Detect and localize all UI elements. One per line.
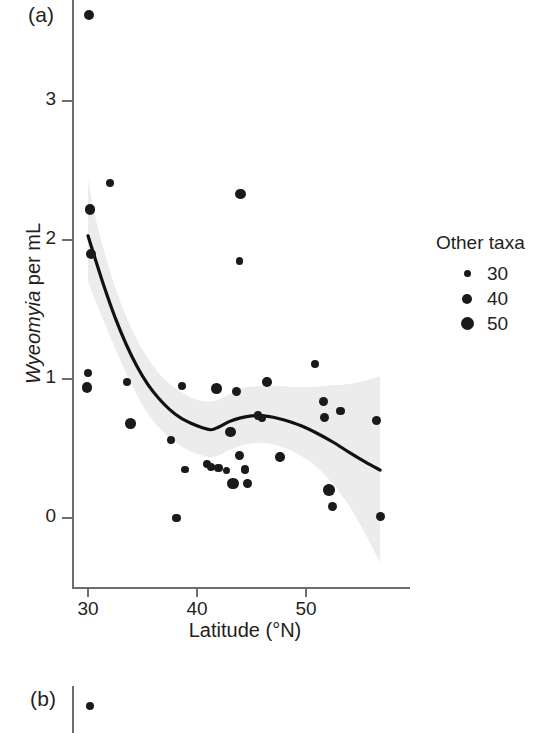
data-point xyxy=(323,484,335,496)
data-point xyxy=(178,382,186,390)
legend-entry-30: 30 xyxy=(436,261,546,286)
legend-bubble-cell xyxy=(454,270,480,277)
data-point xyxy=(125,418,136,429)
plot-curves xyxy=(0,0,546,733)
legend-label-30: 30 xyxy=(487,263,508,285)
data-point xyxy=(172,514,181,523)
figure-panel-a-b: (a) (b) 0123304050 Wyeomyia per mL Latit… xyxy=(0,0,546,733)
legend: Other taxa 304050 xyxy=(436,232,546,336)
data-point xyxy=(211,383,222,394)
data-point xyxy=(225,427,236,438)
legend-bubble-cell xyxy=(454,317,480,330)
legend-entry-50: 50 xyxy=(436,311,546,336)
legend-label-40: 40 xyxy=(487,288,508,310)
data-point xyxy=(84,10,94,20)
legend-label-50: 50 xyxy=(487,313,508,335)
data-point xyxy=(167,436,175,444)
legend-entry-40: 40 xyxy=(436,286,546,311)
legend-bubble-30 xyxy=(464,270,471,277)
legend-bubble-50 xyxy=(461,317,474,330)
legend-title: Other taxa xyxy=(436,232,546,254)
legend-bubble-cell xyxy=(454,294,480,304)
data-point xyxy=(376,512,385,521)
data-point xyxy=(243,479,252,488)
data-point xyxy=(241,465,250,474)
legend-rows: 304050 xyxy=(436,261,546,336)
data-point xyxy=(236,257,244,265)
data-point xyxy=(275,452,284,461)
data-point xyxy=(227,478,238,489)
data-point xyxy=(232,387,241,396)
data-point xyxy=(181,466,188,473)
data-point xyxy=(106,179,114,187)
legend-bubble-40 xyxy=(462,294,472,304)
data-point xyxy=(311,360,319,368)
data-point xyxy=(319,397,328,406)
data-point xyxy=(82,382,93,393)
data-point xyxy=(85,204,96,215)
data-point xyxy=(262,377,272,387)
